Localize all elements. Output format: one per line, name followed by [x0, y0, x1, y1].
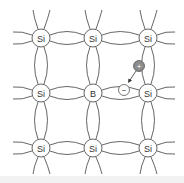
atom-label: Si	[37, 144, 45, 154]
atom-label: Si	[144, 89, 152, 99]
atom-label: Si	[37, 89, 45, 99]
boron-doped-silicon-lattice: Si Si Si Si B Si Si Si Si + −	[0, 0, 184, 183]
atom-label: Si	[89, 144, 97, 154]
electron-label: −	[122, 86, 127, 95]
atom-label: Si	[144, 34, 152, 44]
atom-label: Si	[37, 34, 45, 44]
atom-label: Si	[144, 144, 152, 154]
atom-label: Si	[89, 34, 97, 44]
arrow-head-icon	[128, 79, 132, 84]
atom-label: B	[90, 89, 96, 99]
arrow-line	[130, 71, 136, 80]
bottom-strip	[0, 176, 184, 183]
hole-label: +	[137, 62, 142, 71]
